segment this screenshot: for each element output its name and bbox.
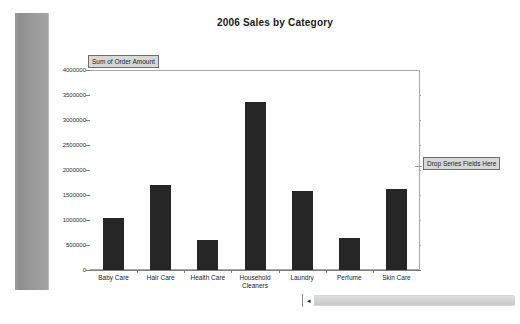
category-axis-label: Laundry <box>279 274 326 282</box>
value-axis-tick-mark <box>86 70 90 71</box>
chart-title: 2006 Sales by Category <box>60 17 490 28</box>
category-axis-label: Perfume <box>326 274 373 282</box>
value-axis-tick-label: 2000000 <box>42 167 86 173</box>
value-axis-tick-label: 3000000 <box>42 117 86 123</box>
value-axis-tick-mark <box>86 220 90 221</box>
category-axis-label: Household Cleaners <box>231 274 278 290</box>
totals-field-button[interactable]: Sum of Order Amount <box>88 55 159 68</box>
value-axis-labels: 4000000350000030000002500000200000015000… <box>38 0 86 324</box>
value-axis-tick-mark <box>86 145 90 146</box>
category-axis-tick <box>231 270 232 273</box>
chart-bar[interactable] <box>339 238 360 270</box>
category-axis-tick <box>279 270 280 273</box>
value-axis-tick-label: 1000000 <box>42 217 86 223</box>
value-axis-tick-label: 1500000 <box>42 192 86 198</box>
chart-bar[interactable] <box>292 191 313 271</box>
horizontal-scrollbar-thumb[interactable] <box>315 296 515 305</box>
series-drop-zone[interactable]: Drop Series Fields Here <box>423 157 500 170</box>
chart-bar[interactable] <box>197 240 218 270</box>
category-axis-label: Hair Care <box>137 274 184 282</box>
chart-bar[interactable] <box>103 218 124 270</box>
value-axis-tick-mark <box>86 195 90 196</box>
category-axis-label: Baby Care <box>90 274 137 282</box>
category-axis-label: Skin Care <box>373 274 420 282</box>
value-axis-tick-label: 500000 <box>42 242 86 248</box>
category-axis-line <box>90 270 421 271</box>
category-axis-tick <box>373 270 374 273</box>
chart-bar[interactable] <box>245 102 266 270</box>
tab-scroll-left-button[interactable]: ◂ <box>302 294 314 307</box>
value-axis-tick-mark <box>86 245 90 246</box>
category-axis-tick <box>326 270 327 273</box>
value-axis-tick-label: 3500000 <box>42 92 86 98</box>
horizontal-scrollbar[interactable] <box>314 295 514 306</box>
category-axis-tick <box>137 270 138 273</box>
value-axis-tick-label: 2500000 <box>42 142 86 148</box>
value-axis-tick-label: 0 <box>42 267 86 273</box>
category-axis-label: Health Care <box>184 274 231 282</box>
chart-window: 2006 Sales by Category 40000003500000300… <box>0 0 520 324</box>
value-axis-tick-mark <box>86 120 90 121</box>
chart-bar[interactable] <box>150 185 171 270</box>
category-axis-tick <box>184 270 185 273</box>
value-axis-tick-mark <box>86 270 90 271</box>
value-axis-tick-label: 4000000 <box>42 67 86 73</box>
value-axis-tick-mark <box>86 170 90 171</box>
chart-bar[interactable] <box>386 189 407 270</box>
value-axis-tick-mark <box>86 95 90 96</box>
